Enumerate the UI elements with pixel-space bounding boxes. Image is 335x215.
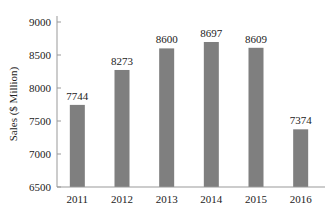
- y-tick-label: 8500: [29, 49, 52, 61]
- x-tick-label: 2013: [156, 193, 179, 205]
- x-tick-label: 2012: [111, 193, 133, 205]
- x-tick-label: 2011: [67, 193, 89, 205]
- x-axis: 201120122013201420152016: [57, 187, 325, 205]
- y-tick-label: 8000: [29, 82, 52, 94]
- x-tick-label: 2015: [245, 193, 268, 205]
- y-tick-label: 7500: [29, 115, 52, 127]
- bar-2014: [204, 42, 219, 187]
- data-label: 8697: [200, 27, 223, 39]
- y-axis-title: Sales ($ Million): [7, 66, 20, 141]
- bar-2016: [293, 129, 308, 187]
- x-tick-label: 2016: [290, 193, 313, 205]
- y-axis: 650070007500800085009000: [29, 16, 61, 193]
- bar-2015: [249, 48, 264, 187]
- y-tick-label: 7000: [29, 148, 52, 160]
- data-label: 7374: [290, 114, 313, 126]
- data-label: 7744: [66, 90, 89, 102]
- bars-group: 774482738600869786097374: [66, 27, 312, 187]
- y-tick-label: 9000: [29, 16, 52, 28]
- bar-chart: Sales ($ Million) 6500700075008000850090…: [0, 0, 335, 215]
- bar-2011: [70, 105, 85, 187]
- data-label: 8609: [245, 33, 268, 45]
- data-label: 8273: [111, 55, 134, 67]
- x-tick-label: 2014: [200, 193, 223, 205]
- bar-2012: [115, 70, 130, 187]
- y-tick-label: 6500: [29, 181, 52, 193]
- bar-2013: [159, 48, 174, 187]
- data-label: 8600: [156, 33, 179, 45]
